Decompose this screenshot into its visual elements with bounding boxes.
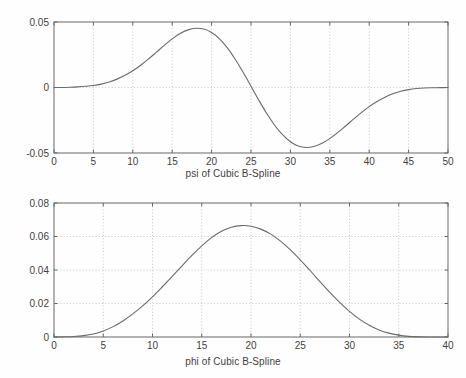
- plot-panel-phi: 051015202530354000.020.040.060.08 phi of…: [0, 189, 466, 378]
- psi-xtick-15: 15: [167, 156, 179, 167]
- psi-plot-svg: 05101520253035404550-0.0500.05: [0, 0, 466, 189]
- phi-plot-svg: 051015202530354000.020.040.060.08: [0, 189, 466, 378]
- plot-panel-psi: 05101520253035404550-0.0500.05 psi of Cu…: [0, 0, 466, 189]
- phi-ytick-0.04: 0.04: [30, 265, 50, 276]
- psi-xtick-25: 25: [245, 156, 257, 167]
- psi-ytick-0: 0: [43, 82, 49, 93]
- phi-xtick-20: 20: [245, 340, 257, 351]
- psi-xtick-50: 50: [442, 156, 454, 167]
- phi-ytick-0.08: 0.08: [30, 198, 50, 209]
- figure-canvas: 05101520253035404550-0.0500.05 psi of Cu…: [0, 0, 466, 378]
- psi-xtick-10: 10: [127, 156, 139, 167]
- phi-xtick-40: 40: [442, 340, 454, 351]
- phi-ytick-0.02: 0.02: [30, 298, 50, 309]
- phi-xtick-25: 25: [295, 340, 307, 351]
- phi-ytick-0.06: 0.06: [30, 231, 50, 242]
- phi-ytick-0: 0: [43, 332, 49, 343]
- phi-xtick-0: 0: [51, 340, 57, 351]
- psi-xtick-35: 35: [324, 156, 336, 167]
- phi-xaxis-label: phi of Cubic B-Spline: [0, 356, 466, 367]
- psi-xtick-40: 40: [364, 156, 376, 167]
- psi-xtick-30: 30: [285, 156, 297, 167]
- psi-ytick-0.05: 0.05: [30, 17, 50, 28]
- psi-xtick-45: 45: [403, 156, 415, 167]
- phi-xtick-35: 35: [393, 340, 405, 351]
- phi-xtick-10: 10: [147, 340, 159, 351]
- psi-xaxis-label: psi of Cubic B-Spline: [0, 168, 466, 179]
- phi-xtick-30: 30: [344, 340, 356, 351]
- psi-xtick-20: 20: [206, 156, 218, 167]
- psi-xtick-0: 0: [51, 156, 57, 167]
- psi-xtick-5: 5: [91, 156, 97, 167]
- phi-xtick-15: 15: [196, 340, 208, 351]
- phi-xtick-5: 5: [100, 340, 106, 351]
- psi-ytick--0.05: -0.05: [26, 148, 49, 159]
